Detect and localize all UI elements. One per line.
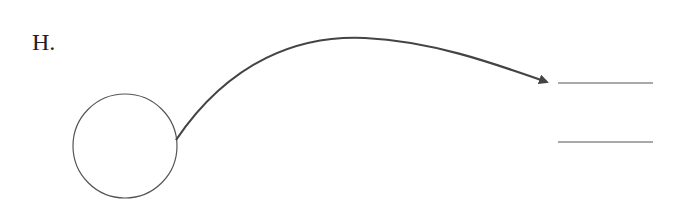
circle-shape [73, 94, 177, 198]
diagram-canvas [0, 0, 690, 206]
curved-arrow [176, 38, 547, 140]
